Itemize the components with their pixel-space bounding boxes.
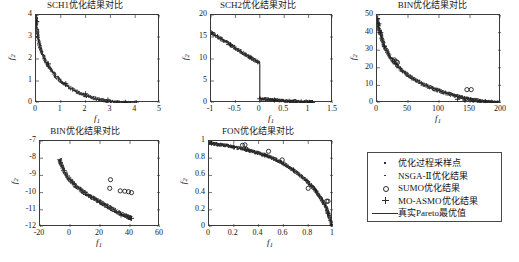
y-tick-label: 10 [184, 54, 207, 62]
plus-icon [372, 196, 398, 206]
x-tick-label: 0 [33, 105, 37, 113]
x-tick-label: 0 [67, 229, 71, 237]
y-tick-label: -7 [13, 136, 36, 144]
x-tick-label: 5 [157, 105, 161, 113]
y-tick-label: 0 [350, 98, 373, 106]
x-tick-label: 20 [95, 229, 103, 237]
xaxis-label-bin-bottom: f1 [96, 237, 102, 248]
pareto-front-line [211, 33, 260, 64]
yaxis-label-bin-bottom: f2 [9, 178, 20, 184]
plot-canvas-fon [209, 141, 333, 227]
pareto-sample-cloud [36, 15, 135, 103]
circle-icon [372, 183, 398, 193]
xaxis-label-sch2: f1 [268, 113, 274, 124]
x-tick-label: 0.5 [278, 105, 288, 113]
legend-item-label: MO-ASMO优化结果 [398, 196, 478, 206]
legend-item: 真实Pareto最优值 [372, 207, 466, 219]
legend-item: NSGA-Ⅱ优化结果 [372, 170, 468, 182]
y-tick-label: -9 [13, 170, 36, 178]
pareto-sample-cloud [209, 141, 333, 225]
plot-area-sch2 [210, 14, 332, 102]
chart-panel-sch1: SCH1优化结果对比 f1 f2 01234501234 [0, 0, 170, 128]
x-tick-label: 3 [107, 105, 111, 113]
x-tick-label: 0 [257, 105, 261, 113]
pareto-front-line [209, 143, 332, 226]
legend-item: MO-ASMO优化结果 [372, 195, 478, 207]
line-icon [372, 208, 398, 218]
legend-item-label: 真实Pareto最优值 [398, 208, 466, 218]
y-tick-label: 4 [9, 10, 32, 18]
y-tick-label: 10 [350, 80, 373, 88]
y-tick-label: -8 [13, 153, 36, 161]
marker-circle [306, 186, 310, 190]
chart-panel-sch2: SCH2优化结果对比 f1 f2 -1-0.500.511.505101520 [172, 0, 344, 128]
chart-title-bin-bottom: BIN优化结果对比 [0, 126, 170, 136]
x-tick-label: 1.5 [327, 105, 337, 113]
legend-item-label: 优化过程采样点 [398, 158, 461, 168]
plot-area-sch1 [35, 14, 159, 102]
x-tick-label: -0.5 [228, 105, 241, 113]
y-tick-label: -10 [13, 188, 36, 196]
marker-circle [465, 88, 469, 92]
y-tick-label: -12 [13, 222, 36, 230]
y-tick-label: 0.2 [182, 205, 205, 213]
y-tick-label: 5 [184, 76, 207, 84]
y-tick-label: 20 [350, 63, 373, 71]
x-tick-label: 60 [155, 229, 163, 237]
chart-title-fon: FON优化结果对比 [172, 126, 344, 136]
dot-small-icon [372, 171, 398, 181]
y-tick-label: 50 [350, 10, 373, 18]
y-tick-label: 0 [184, 98, 207, 106]
y-tick-label: 2 [9, 54, 32, 62]
y-tick-label: 0 [182, 222, 205, 230]
chart-panel-fon: FON优化结果对比 f1 f2 00.20.40.60.8100.20.40.6… [172, 126, 344, 262]
y-tick-label: 0.4 [182, 188, 205, 196]
marker-circle [118, 189, 122, 193]
marker-circle [108, 186, 112, 190]
xaxis-label-bin-top: f1 [435, 113, 441, 124]
x-tick-label: -1 [207, 105, 214, 113]
y-tick-label: 0 [9, 98, 32, 106]
y-tick-label: 3 [9, 32, 32, 40]
legend-item: SUMO优化结果 [372, 182, 460, 194]
legend-item: 优化过程采样点 [372, 157, 461, 169]
x-tick-label: 2 [83, 105, 87, 113]
plot-area-bin-bottom [39, 140, 159, 226]
y-tick-label: 40 [350, 28, 373, 36]
xaxis-label-sch1: f1 [94, 113, 100, 124]
plot-canvas-bin-top [377, 15, 501, 103]
x-tick-label: 1 [330, 229, 334, 237]
plot-canvas-bin-bottom [40, 141, 160, 227]
x-tick-label: 40 [125, 229, 133, 237]
chart-panel-bin-bottom: BIN优化结果对比 f1 f2 -200204060-12-11-10-9-8-… [0, 126, 170, 262]
y-tick-label: 1 [9, 76, 32, 84]
plot-canvas-sch1 [36, 15, 160, 103]
x-tick-label: 1 [58, 105, 62, 113]
x-tick-label: 0.6 [277, 229, 287, 237]
xaxis-label-fon: f1 [267, 237, 273, 248]
marker-circle [266, 149, 270, 153]
y-tick-label: 15 [184, 32, 207, 40]
x-tick-label: 0.2 [228, 229, 238, 237]
x-tick-label: 4 [132, 105, 136, 113]
x-tick-label: 0.4 [253, 229, 263, 237]
dot-small-icon [372, 158, 398, 168]
yaxis-label-fon: f2 [178, 178, 189, 184]
marker-circle [108, 178, 112, 182]
pareto-front-line [36, 15, 135, 103]
chart-title-sch2: SCH2优化结果对比 [172, 0, 344, 10]
chart-title-sch1: SCH1优化结果对比 [0, 0, 170, 10]
x-tick-label: 200 [494, 105, 506, 113]
y-tick-label: 20 [184, 10, 207, 18]
legend-item-label: NSGA-Ⅱ优化结果 [398, 171, 468, 181]
plot-area-bin-top [376, 14, 500, 102]
plot-legend: 优化过程采样点NSGA-Ⅱ优化结果SUMO优化结果MO-ASMO优化结果真实Pa… [367, 152, 502, 222]
x-tick-label: 150 [463, 105, 475, 113]
x-tick-label: 0 [374, 105, 378, 113]
x-tick-label: 0 [206, 229, 210, 237]
y-tick-label: 0.6 [182, 170, 205, 178]
chart-panel-bin-top: BIN优化结果对比 f1 f2 05010015020001020304050 [346, 0, 519, 128]
y-tick-label: 1 [182, 136, 205, 144]
x-tick-label: 50 [403, 105, 411, 113]
x-tick-label: 1 [306, 105, 310, 113]
